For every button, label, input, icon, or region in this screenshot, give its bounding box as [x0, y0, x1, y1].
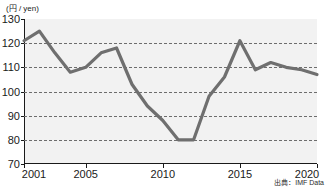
y-tick-label: 90	[8, 110, 20, 121]
x-tick-label: 2010	[151, 169, 175, 180]
y-tick-label: 120	[2, 38, 20, 49]
y-tick-label: 70	[8, 159, 20, 170]
chart-figure: (円 / yen) 130120110100908070 20012005201…	[0, 0, 329, 189]
y-tick-label: 130	[2, 14, 20, 25]
y-axis-unit-label: (円 / yen)	[6, 2, 39, 13]
plot-area: 130120110100908070 20012005201020152020	[24, 19, 317, 164]
x-tick-label: 2015	[228, 169, 252, 180]
x-tick-label: 2001	[22, 169, 46, 180]
y-tick-label: 100	[2, 86, 20, 97]
series-line-yen	[24, 31, 317, 140]
source-note: 出典：IMF Data	[274, 177, 324, 187]
y-tick-label: 110	[2, 62, 20, 73]
x-tick-label: 2005	[73, 169, 97, 180]
series-line-chart	[24, 19, 317, 164]
y-tick-label: 80	[8, 134, 20, 145]
